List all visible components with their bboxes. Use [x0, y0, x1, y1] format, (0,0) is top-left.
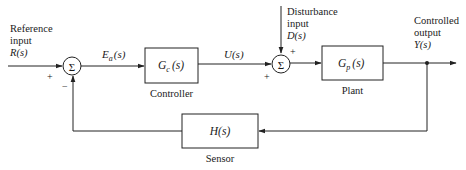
sensor-label: Sensor	[206, 153, 235, 164]
summer-1-sigma-icon: Σ	[69, 61, 75, 73]
summer-1-minus-sign: −	[62, 81, 68, 92]
block-diagram: Reference input R(s) + Σ − Ea(s) Gc(s) C…	[0, 0, 466, 170]
controlled-output-line1: Controlled	[414, 15, 460, 26]
controller-block: Gc(s) Controller	[145, 48, 198, 99]
summer-2-top-plus-sign: +	[290, 46, 296, 57]
sensor-block: H(s) Sensor	[182, 114, 258, 164]
reference-input-line1: Reference	[10, 23, 53, 34]
summer-2: Σ	[272, 55, 290, 73]
controlled-output-line2: output	[414, 27, 441, 38]
control-signal-label: U(s)	[224, 48, 244, 61]
sensor-transfer-function: H(s)	[209, 125, 231, 138]
disturbance-input-line1: Disturbance	[287, 6, 338, 17]
disturbance-input-line2: input	[287, 18, 309, 29]
controlled-output-label: Controlled output Y(s)	[414, 15, 460, 51]
error-signal-label: Ea(s)	[101, 48, 126, 63]
disturbance-input-symbol: D(s)	[286, 30, 306, 42]
reference-input-label: Reference input R(s)	[9, 23, 53, 59]
disturbance-input-label: Disturbance input D(s)	[286, 6, 338, 42]
feedback-to-summer-arrow	[73, 76, 182, 131]
controller-label: Controller	[150, 88, 194, 99]
controlled-output-symbol: Y(s)	[414, 39, 431, 51]
summer-1-plus-sign: +	[47, 71, 53, 82]
plant-label: Plant	[342, 85, 364, 96]
summer-2-left-plus-sign: +	[264, 71, 270, 82]
summer-1: Σ	[63, 57, 81, 75]
summer-2-sigma-icon: Σ	[278, 59, 284, 71]
plant-block: Gp(s) Plant	[322, 46, 383, 96]
reference-input-symbol: R(s)	[9, 47, 28, 59]
reference-input-line2: input	[10, 35, 32, 46]
